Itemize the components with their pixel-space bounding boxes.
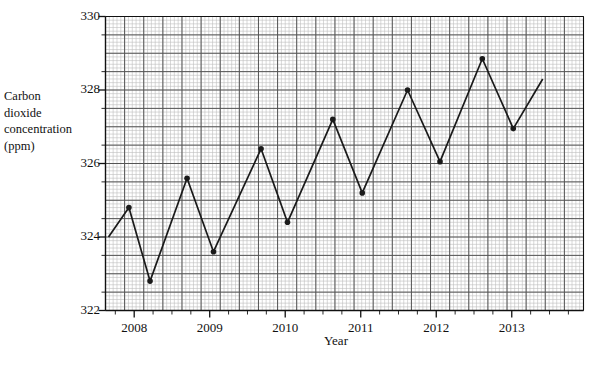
data-point-marker xyxy=(211,249,217,255)
chart-figure: Carbon dioxide concentration (ppm) 32232… xyxy=(0,0,601,369)
data-point-marker xyxy=(258,146,264,152)
data-point-marker xyxy=(330,117,336,123)
data-point-marker xyxy=(184,175,190,181)
data-point-marker xyxy=(405,87,411,93)
data-point-marker xyxy=(480,56,486,62)
plot-area xyxy=(0,0,601,369)
data-point-marker xyxy=(437,159,443,165)
data-point-marker xyxy=(510,126,516,132)
data-point-marker xyxy=(285,220,291,226)
data-point-marker xyxy=(359,190,365,196)
data-point-marker xyxy=(126,205,132,211)
data-point-marker xyxy=(147,278,153,284)
x-axis-label: Year xyxy=(306,333,366,349)
